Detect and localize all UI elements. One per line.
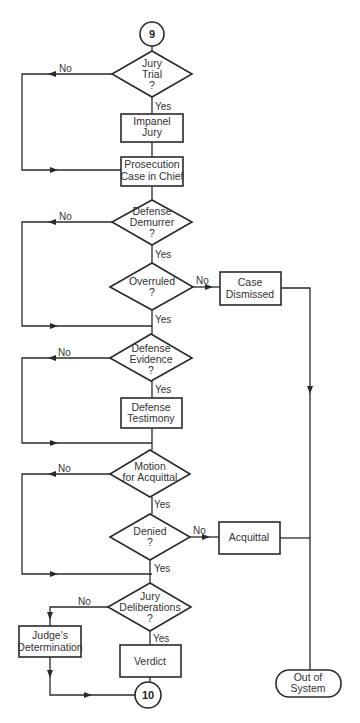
terminal-out-of-system: Out of System bbox=[276, 670, 341, 697]
decision-jury-trial: Jury Trial ? bbox=[112, 51, 192, 97]
svg-text:for Acquittal: for Acquittal bbox=[123, 471, 178, 483]
process-case-dismissed: Case Dismissed bbox=[220, 272, 281, 305]
arrow-down-icon bbox=[307, 386, 313, 394]
arrow-right-icon bbox=[50, 167, 58, 173]
edge-label-no: No bbox=[78, 596, 91, 607]
edge-label-no: No bbox=[59, 63, 72, 74]
svg-text:Case in Chief: Case in Chief bbox=[120, 170, 183, 182]
arrow-right-icon bbox=[50, 571, 58, 577]
edge-label-yes: Yes bbox=[155, 101, 171, 112]
svg-text:?: ? bbox=[147, 536, 153, 548]
svg-text:?: ? bbox=[149, 79, 155, 91]
arrow-left-icon bbox=[48, 219, 56, 225]
edge-label-yes: Yes bbox=[154, 563, 170, 574]
edge-label-yes: Yes bbox=[155, 314, 171, 325]
svg-text:Case: Case bbox=[238, 276, 263, 288]
svg-text:Testimony: Testimony bbox=[127, 412, 175, 424]
process-prosecution-case: Prosecution Case in Chief bbox=[120, 157, 183, 186]
edge-label-no: No bbox=[193, 525, 206, 536]
edge-label-yes: Yes bbox=[155, 249, 171, 260]
edge-label-no: No bbox=[58, 463, 71, 474]
decision-motion-for-acquittal: Motion for Acquittal bbox=[110, 450, 190, 497]
edge-label-no: No bbox=[58, 347, 71, 358]
edge-label-no: No bbox=[59, 211, 72, 222]
decision-defense-demurrer: Defense Demurrer ? bbox=[112, 200, 192, 245]
svg-text:10: 10 bbox=[142, 689, 154, 701]
svg-text:?: ? bbox=[149, 286, 155, 298]
arrow-right-icon bbox=[50, 440, 58, 446]
svg-text:?: ? bbox=[149, 227, 155, 239]
process-impanel-jury: Impanel Jury bbox=[121, 114, 183, 142]
process-defense-testimony: Defense Testimony bbox=[121, 398, 182, 428]
svg-text:Verdict: Verdict bbox=[134, 655, 166, 667]
arrow-down-icon bbox=[47, 612, 53, 620]
decision-jury-deliberations: Jury Deliberations ? bbox=[108, 583, 191, 631]
decision-overruled: Overruled ? bbox=[110, 263, 193, 310]
svg-text:Acquittal: Acquittal bbox=[229, 531, 269, 543]
arrow-left-icon bbox=[48, 471, 56, 477]
arrow-right-icon bbox=[50, 323, 58, 329]
edge-label-yes: Yes bbox=[153, 633, 169, 644]
decision-denied: Denied ? bbox=[110, 514, 190, 560]
process-verdict: Verdict bbox=[120, 645, 181, 677]
process-judges-determination: Judge's Determination bbox=[17, 626, 83, 657]
decision-defense-evidence: Defense Evidence ? bbox=[110, 334, 192, 381]
arrow-left-icon bbox=[48, 71, 56, 77]
svg-text:Prosecution: Prosecution bbox=[124, 158, 180, 170]
arrow-right-icon bbox=[84, 692, 92, 698]
edge-label-no: No bbox=[196, 275, 209, 286]
svg-text:System: System bbox=[290, 682, 325, 694]
arrow-left-icon bbox=[48, 355, 56, 361]
arrow-down-icon bbox=[47, 670, 53, 678]
flowchart-canvas: No Yes No Yes No Yes No Yes No Yes No Ye… bbox=[0, 0, 360, 723]
connector-10: 10 bbox=[135, 682, 161, 708]
connector-9: 9 bbox=[140, 22, 164, 46]
svg-text:?: ? bbox=[147, 612, 153, 624]
edge-label-yes: Yes bbox=[154, 499, 170, 510]
svg-text:?: ? bbox=[148, 364, 154, 376]
svg-text:Judge's: Judge's bbox=[32, 629, 68, 641]
svg-text:Jury: Jury bbox=[142, 126, 163, 138]
svg-text:Dismissed: Dismissed bbox=[226, 288, 275, 300]
svg-text:Determination: Determination bbox=[17, 641, 83, 653]
process-acquittal: Acquittal bbox=[219, 522, 280, 554]
svg-text:9: 9 bbox=[149, 28, 155, 40]
edge-label-yes: Yes bbox=[155, 384, 171, 395]
